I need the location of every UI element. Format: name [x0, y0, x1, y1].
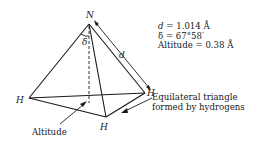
base-edge-front-right: [106, 93, 145, 117]
d-label: d: [119, 50, 125, 60]
base-edge-left-front: [29, 98, 106, 117]
base-annotation-line2: formed by hydrogens: [152, 103, 245, 113]
base-edge-left-right: [29, 93, 145, 98]
delta-angle-arc: [81, 34, 89, 36]
bond-n-h-front: [89, 24, 106, 117]
parameters-block: d = 1.014 Å δ = 67°58′ Altitude = 0.38 Å: [158, 22, 233, 51]
base-annotation: Equilateral triangle formed by hydrogens: [152, 93, 245, 112]
atom-label-h-left: H: [16, 95, 24, 105]
bond-n-h-right: [89, 24, 145, 93]
d-arrowhead-top: [94, 20, 99, 26]
base-pointer: [125, 98, 152, 111]
base-pointer-head: [121, 108, 128, 113]
altitude-annotation: Altitude: [32, 127, 67, 137]
atom-label-h-front: H: [100, 122, 108, 132]
atom-label-n: N: [86, 10, 94, 20]
delta-label: δ: [82, 37, 87, 47]
bond-n-h-left: [29, 24, 89, 98]
param-altitude: Altitude = 0.38 Å: [158, 41, 233, 51]
